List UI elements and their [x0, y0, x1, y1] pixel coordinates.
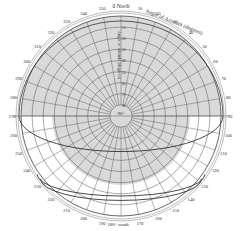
azimuth-label-150: 150: [172, 208, 180, 213]
azimuth-label-310: 310: [34, 44, 42, 49]
altitude-axis-label: Angle of altitude (degrees): [117, 31, 122, 80]
azimuth-label-290: 290: [15, 76, 23, 81]
altitude-label-60: 60: [122, 82, 126, 86]
azimuth-label-270: 270: [9, 114, 17, 119]
azimuth-label-80: 80: [226, 95, 231, 100]
azimuth-label-300: 300: [23, 59, 31, 64]
azimuth-label-350: 350: [99, 6, 107, 11]
azimuth-label-120: 120: [212, 168, 220, 173]
azimuth-label-220: 220: [47, 197, 55, 202]
azimuth-label-60: 60: [213, 59, 218, 64]
center-label: 90°: [118, 111, 125, 116]
azimuth-label-230: 230: [34, 184, 42, 189]
azimuth-label-330: 330: [63, 19, 71, 24]
altitude-label-70: 70: [122, 93, 126, 97]
altitude-label-10: 10: [122, 26, 126, 30]
azimuth-label-90: 90: [228, 114, 233, 119]
azimuth-label-340: 340: [80, 11, 88, 16]
azimuth-label-210: 210: [63, 208, 71, 213]
azimuth-label-50: 50: [202, 44, 207, 49]
azimuth-label-140: 140: [188, 197, 196, 202]
sun-path-diagram: 1020304050607080901001101201301401501601…: [0, 0, 241, 231]
altitude-label-80: 80: [122, 104, 126, 108]
azimuth-label-160: 160: [155, 216, 163, 221]
azimuth-label-250: 250: [15, 151, 23, 156]
azimuth-label-170: 170: [136, 221, 144, 226]
azimuth-label-10: 10: [138, 6, 143, 11]
azimuth-label-100: 100: [225, 133, 233, 138]
azimuth-label-130: 130: [201, 184, 209, 189]
north-label: 0 North: [113, 3, 130, 9]
azimuth-label-320: 320: [47, 30, 55, 35]
azimuth-label-110: 110: [220, 151, 227, 156]
south-label: 180° south: [107, 222, 129, 227]
azimuth-label-280: 280: [10, 95, 18, 100]
azimuth-label-200: 200: [80, 216, 88, 221]
azimuth-label-190: 190: [99, 221, 107, 226]
azimuth-label-240: 240: [23, 168, 31, 173]
azimuth-label-70: 70: [221, 76, 226, 81]
azimuth-label-260: 260: [10, 133, 18, 138]
